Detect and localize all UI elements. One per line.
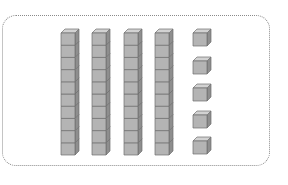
cube: [193, 29, 211, 46]
tens-rod-3: [124, 29, 142, 155]
unit-cube-2: [193, 57, 211, 74]
cube: [61, 29, 79, 45]
base-ten-blocks-diagram: [0, 0, 288, 185]
cube: [193, 137, 211, 154]
tens-rod-4: [155, 29, 173, 155]
unit-cube-1: [193, 29, 211, 46]
cube: [155, 29, 173, 45]
tens-rods: [61, 29, 173, 155]
unit-cube-5: [193, 137, 211, 154]
tens-rod-1: [61, 29, 79, 155]
cube: [193, 111, 211, 128]
unit-cube-3: [193, 84, 211, 101]
cube: [92, 29, 110, 45]
unit-cubes: [193, 29, 211, 154]
cube: [124, 29, 142, 45]
cube: [193, 57, 211, 74]
cube: [193, 84, 211, 101]
unit-cube-4: [193, 111, 211, 128]
tens-rod-2: [92, 29, 110, 155]
